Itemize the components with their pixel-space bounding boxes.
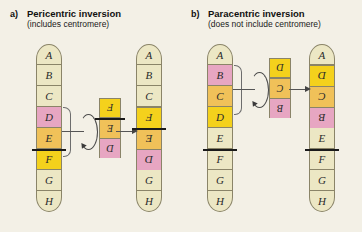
chromosome-band-h: H [36,191,62,212]
chromosome-band-e: E [99,118,121,138]
chromosome-band-b: B [309,107,335,128]
chromosome-band-d: D [99,138,121,158]
result-chromosome-b: ADCBEFGH [309,44,335,212]
chromosome-band-f: F [207,149,233,170]
centromere-marker [132,128,166,130]
chromosome-band-e: E [309,128,335,149]
original-chromosome-a: ABCDEFGH [36,44,62,212]
centromere-marker [203,149,237,151]
chromosome-band-b: B [207,65,233,86]
chromosome-band-c: C [136,86,162,107]
chromosome-band-b: B [36,65,62,86]
chromosome-band-d: D [309,65,335,86]
chromosome-band-h: H [207,191,233,212]
chromosome-band-d: D [36,107,62,128]
chromosome-band-g: G [36,170,62,191]
centromere-marker [305,149,339,151]
inverted-fragment-a: FED [99,98,121,158]
chromosome-band-f: F [136,107,162,128]
inverted-fragment-b: DCB [269,58,291,118]
chromosome-band-e: E [207,128,233,149]
result-chromosome-a: ABCFEDGH [136,44,162,212]
original-chromosome-b: ABCDEFGH [207,44,233,212]
centromere-marker [95,118,125,120]
panel-b-title: Paracentric inversion [208,8,305,19]
chromosome-band-d: D [207,107,233,128]
chromosome-band-g: G [309,170,335,191]
chromosome-band-e: E [36,128,62,149]
chromosome-band-a: A [207,44,233,65]
panel-a-title: Pericentric inversion [27,8,121,19]
chromosome-band-c: C [269,78,291,98]
chromosome-band-h: H [136,191,162,212]
panel-b-subtitle: (does not include centromere) [208,19,321,29]
chromosome-band-f: F [99,98,121,118]
panel-a-letter: a) [10,9,18,19]
centromere-marker [32,149,66,151]
panel-paracentric-inversion: b) Paracentric inversion (does not inclu… [181,0,362,232]
chromosome-band-c: C [36,86,62,107]
chromosome-band-c: C [207,86,233,107]
chromosome-band-f: F [309,149,335,170]
chromosome-band-h: H [309,191,335,212]
chromosome-band-c: C [309,86,335,107]
transform-arrowhead-b [305,86,311,92]
panel-pericentric-inversion: a) Pericentric inversion (includes centr… [0,0,181,232]
chromosome-band-a: A [36,44,62,65]
chromosome-band-g: G [136,170,162,191]
panel-a-subtitle: (includes centromere) [27,19,109,29]
chromosome-band-b: B [269,98,291,118]
chromosome-band-a: A [136,44,162,65]
inversion-bracket-b [234,65,242,115]
chromosome-band-d: D [269,58,291,78]
chromosome-band-b: B [136,65,162,86]
panel-b-letter: b) [191,9,200,19]
chromosome-band-f: F [36,149,62,170]
chromosome-band-a: A [309,44,335,65]
chromosome-band-d: D [136,149,162,170]
chromosome-band-g: G [207,170,233,191]
chromosome-band-e: E [136,128,162,149]
